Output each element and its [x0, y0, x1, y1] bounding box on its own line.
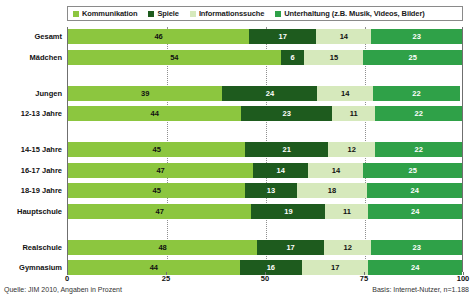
bar-value-label: 16: [267, 263, 275, 272]
bar-row: 47191124: [68, 204, 462, 219]
bar-value-label: 11: [350, 109, 358, 118]
bar-value-label: 18: [328, 186, 336, 195]
legend-label: Informationssuche: [199, 10, 264, 18]
bar-segment: 24: [368, 204, 462, 219]
legend-swatch-icon: [190, 11, 196, 17]
bar-segment: 17: [249, 29, 316, 44]
bar-value-label: 24: [411, 263, 419, 272]
legend-item: Spiele: [148, 10, 179, 18]
x-axis-tick-label: 50: [261, 274, 269, 283]
bar-value-label: 24: [411, 207, 419, 216]
bar-value-label: 17: [286, 243, 294, 252]
bar-segment: 23: [241, 106, 332, 121]
bar-segment: 22: [373, 86, 460, 101]
bar-value-label: 47: [156, 207, 164, 216]
bar-row: 45131824: [68, 183, 462, 198]
bar-segment: 22: [375, 142, 462, 157]
bar-row: 48171223: [68, 240, 462, 255]
bar-segment: 46: [68, 29, 249, 44]
bar-row: 44231122: [68, 106, 462, 121]
legend-swatch-icon: [73, 11, 79, 17]
bar-segment: 14: [317, 86, 372, 101]
bar-value-label: 11: [343, 207, 351, 216]
bar-value-label: 17: [331, 263, 339, 272]
bar-row: 46171423: [68, 29, 462, 44]
bar-value-label: 25: [409, 53, 417, 62]
bar-value-label: 14: [332, 166, 340, 175]
bar-segment: 24: [367, 183, 462, 198]
chart-legend: KommunikationSpieleInformationssucheUnte…: [67, 6, 463, 21]
source-note: Quelle: JIM 2010, Angaben in Prozent: [4, 286, 122, 293]
bar-segment: 48: [68, 240, 257, 255]
bar-segment: 17: [257, 240, 324, 255]
bar-segment: 14: [253, 163, 308, 178]
x-axis-tick-label: 100: [457, 274, 470, 283]
bar-value-label: 22: [414, 109, 422, 118]
bar-row: 45211222: [68, 142, 462, 157]
bar-value-label: 17: [279, 32, 287, 41]
category-label: Realschule: [0, 240, 62, 255]
category-label: Hauptschule: [0, 204, 62, 219]
bar-value-label: 14: [277, 166, 285, 175]
bar-value-label: 12: [344, 243, 352, 252]
bar-segment: 45: [68, 142, 245, 157]
bar-value-label: 25: [409, 166, 417, 175]
bar-segment: 24: [368, 260, 462, 275]
bar-value-label: 48: [158, 243, 166, 252]
bar-segment: 17: [302, 260, 368, 275]
category-label: 12-13 Jahre: [0, 106, 62, 121]
bar-segment: 23: [371, 29, 462, 44]
bar-value-label: 22: [414, 145, 422, 154]
bar-value-label: 19: [284, 207, 292, 216]
category-label: 18-19 Jahre: [0, 183, 62, 198]
bar-value-label: 47: [156, 166, 164, 175]
plot-area: 4617142354615253924142244231122452112224…: [67, 27, 463, 272]
legend-label: Spiele: [157, 10, 179, 18]
bar-segment: 25: [363, 163, 462, 178]
x-axis-tick-label: 75: [360, 274, 368, 283]
bar-segment: 11: [325, 204, 368, 219]
bar-segment: 14: [308, 163, 363, 178]
bar-value-label: 13: [267, 186, 275, 195]
bar-value-label: 45: [152, 186, 160, 195]
legend-label: Kommunikation: [82, 10, 137, 18]
bar-value-label: 44: [150, 263, 158, 272]
bar-value-label: 24: [266, 89, 274, 98]
bar-value-label: 23: [413, 243, 421, 252]
bar-segment: 18: [297, 183, 368, 198]
legend-item: Informationssuche: [190, 10, 264, 18]
legend-item: Unterhaltung (z.B. Musik, Videos, Bilder…: [275, 10, 424, 18]
bar-segment: 15: [304, 50, 363, 65]
bar-segment: 44: [68, 106, 241, 121]
x-axis-tick-label: 25: [162, 274, 170, 283]
legend-swatch-icon: [275, 11, 281, 17]
bar-value-label: 39: [141, 89, 149, 98]
bar-value-label: 24: [411, 186, 419, 195]
stacked-bar-chart: KommunikationSpieleInformationssucheUnte…: [0, 0, 475, 300]
category-label: Jungen: [0, 86, 62, 101]
bar-value-label: 15: [330, 53, 338, 62]
bar-segment: 12: [328, 142, 375, 157]
category-label: 16-17 Jahre: [0, 163, 62, 178]
bar-segment: 54: [68, 50, 281, 65]
bar-value-label: 46: [154, 32, 162, 41]
bar-segment: 14: [316, 29, 371, 44]
bar-segment: 44: [68, 260, 240, 275]
bar-segment: 11: [332, 106, 375, 121]
x-axis-tick-label: 0: [65, 274, 69, 283]
bar-segment: 21: [245, 142, 328, 157]
bar-value-label: 22: [412, 89, 420, 98]
bar-segment: 12: [324, 240, 371, 255]
bar-segment: 19: [251, 204, 325, 219]
category-label: Gesamt: [0, 29, 62, 44]
basis-note: Basis: Internet-Nutzer, n=1.188: [372, 286, 469, 293]
bar-value-label: 23: [283, 109, 291, 118]
category-label: 14-15 Jahre: [0, 142, 62, 157]
bar-segment: 6: [281, 50, 305, 65]
bar-value-label: 23: [413, 32, 421, 41]
bar-value-label: 21: [283, 145, 291, 154]
bar-value-label: 54: [170, 53, 178, 62]
bar-value-label: 14: [341, 89, 349, 98]
bar-row: 47141425: [68, 163, 462, 178]
bar-row: 39241422: [68, 86, 462, 101]
